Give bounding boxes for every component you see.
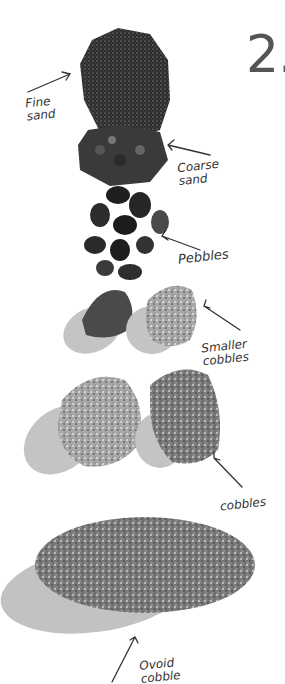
smaller-cobbles-arrow [204, 300, 240, 330]
coarse-sand-pile [78, 125, 168, 186]
step-number: 2. [246, 28, 285, 80]
coarse-sand-arrow [168, 140, 210, 155]
label-smaller-cobbles: Smaller cobbles [201, 338, 250, 368]
label-ovoid-cobble: Ovoid cobble [139, 656, 181, 684]
fine-sand-arrow [28, 72, 70, 92]
label-line: cobble [140, 669, 181, 684]
pebbles-arrow [162, 230, 200, 250]
cobbles-arrow [214, 452, 242, 487]
label-line: sand [26, 107, 56, 123]
cobbles [10, 369, 220, 488]
ovoid-cobble-arrow [112, 637, 138, 682]
ovoid-cobble [0, 517, 255, 645]
sediment-size-figure: 2. Fine sand Coarse sand Pebbles Smaller… [0, 0, 285, 684]
label-coarse-sand: Coarse sand [177, 158, 221, 187]
smaller-cobbles [56, 286, 197, 363]
fine-sand-pile [80, 28, 170, 140]
pebbles-pile [84, 186, 169, 280]
label-fine-sand: Fine sand [25, 95, 56, 123]
